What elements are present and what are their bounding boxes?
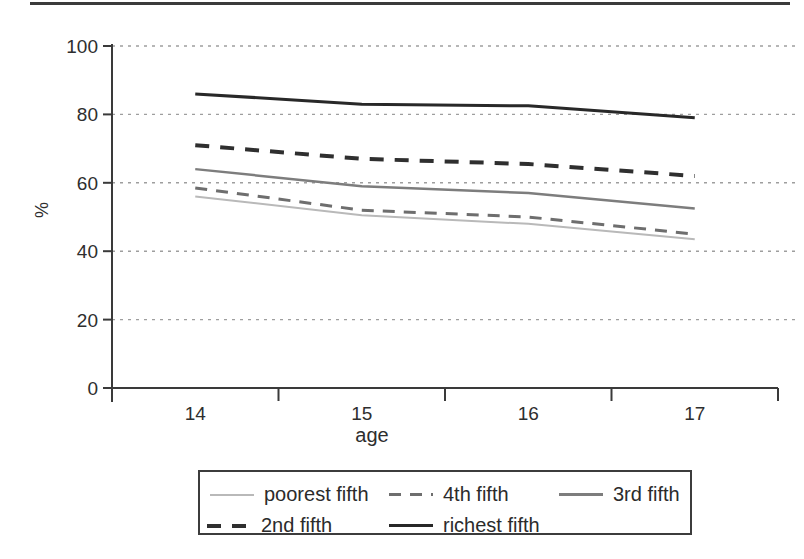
x-axis-label: age (337, 424, 407, 447)
y-tick-label-100: 100 (66, 36, 98, 57)
series-line-2nd-fifth (195, 145, 695, 176)
legend-label-2nd-fifth: 2nd fifth (261, 514, 332, 537)
legend-label-3rd-fifth: 3rd fifth (613, 483, 680, 506)
legend-item-richest-fifth: richest fifth (389, 514, 540, 537)
y-tick-label-80: 80 (77, 104, 98, 125)
legend-label-4th-fifth: 4th fifth (443, 483, 509, 506)
y-tick-label-60: 60 (77, 173, 98, 194)
y-tick-label-40: 40 (77, 241, 98, 262)
legend-item-poorest-fifth: poorest fifth (210, 483, 369, 506)
figure: 02040608010014151617 % age poorest fifth… (0, 0, 804, 559)
legend-swatch-4th-fifth (389, 493, 433, 496)
series-line-poorest-fifth (195, 196, 695, 239)
x-tick-label-14: 14 (185, 403, 207, 424)
legend-item-2nd-fifth: 2nd fifth (207, 514, 332, 537)
line-chart: 02040608010014151617 % age (0, 0, 804, 460)
series-line-3rd-fifth (195, 169, 695, 208)
legend-swatch-poorest-fifth (210, 494, 254, 496)
legend-swatch-2nd-fifth (207, 524, 251, 528)
legend-swatch-richest-fifth (389, 524, 433, 527)
legend-item-3rd-fifth: 3rd fifth (559, 483, 680, 506)
x-tick-label-15: 15 (351, 403, 372, 424)
x-tick-label-16: 16 (518, 403, 539, 424)
legend-item-4th-fifth: 4th fifth (389, 483, 509, 506)
series-line-4th-fifth (195, 188, 695, 234)
legend-swatch-3rd-fifth (559, 493, 603, 496)
series-line-richest-fifth (195, 94, 695, 118)
y-tick-label-0: 0 (87, 378, 98, 399)
plot-svg: 02040608010014151617 (0, 0, 804, 460)
x-tick-label-17: 17 (684, 403, 705, 424)
y-axis-label: % (24, 190, 60, 230)
y-tick-label-20: 20 (77, 310, 98, 331)
legend-label-richest-fifth: richest fifth (443, 514, 540, 537)
legend-label-poorest-fifth: poorest fifth (264, 483, 369, 506)
legend: poorest fifth 4th fifth 3rd fifth 2nd fi… (198, 470, 692, 535)
